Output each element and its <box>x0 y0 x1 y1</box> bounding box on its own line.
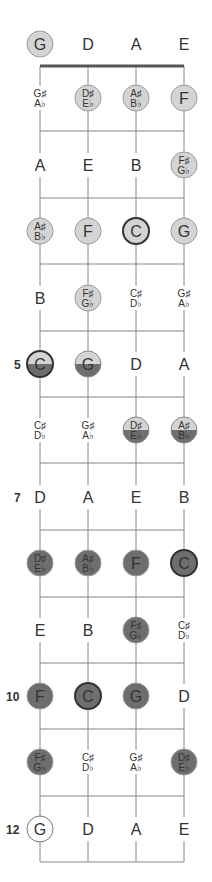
note-3-3: G <box>171 218 197 244</box>
note-label-flat: E♭ <box>82 98 94 109</box>
note-4-0: B <box>30 286 50 310</box>
note-label: C <box>34 356 46 373</box>
note-11-1: C♯D♭ <box>78 750 98 774</box>
note-12-0: G <box>27 816 53 842</box>
note-label: B <box>35 290 46 307</box>
note-label: D <box>130 356 142 373</box>
note-12-1: D <box>78 817 98 841</box>
fretboard-diagram: 571012GDAEG♯A♭D♯E♭A♯B♭FAEBF♯G♭A♯B♭FCGBF♯… <box>0 0 212 882</box>
note-2-3: F♯G♭ <box>171 152 197 178</box>
note-0-2: A <box>126 32 146 56</box>
note-label-flat: A♭ <box>178 298 190 309</box>
fret-number: 7 <box>14 491 21 505</box>
note-11-3: D♯E♭ <box>171 749 197 775</box>
note-5-2: D <box>126 352 146 376</box>
note-5-3: A <box>174 352 194 376</box>
note-3-0: A♯B♭ <box>27 218 53 244</box>
note-label: C <box>130 223 142 240</box>
note-label: C <box>178 555 190 572</box>
note-label: C <box>82 688 94 705</box>
note-label: G <box>178 223 190 240</box>
note-3-2: C <box>123 218 149 244</box>
note-label: G <box>34 36 46 53</box>
note-label: G <box>130 688 142 705</box>
note-12-2: A <box>126 817 146 841</box>
note-label-flat: G♭ <box>34 762 47 773</box>
note-8-3: C <box>171 550 197 576</box>
note-2-1: E <box>78 153 98 177</box>
note-label-flat: B♭ <box>130 98 142 109</box>
note-label: B <box>131 157 142 174</box>
note-1-0: G♯A♭ <box>30 86 50 110</box>
note-label: E <box>179 821 190 838</box>
note-label: G <box>82 356 94 373</box>
note-label-flat: D♭ <box>34 430 46 441</box>
note-label-flat: A♭ <box>34 98 46 109</box>
note-label-flat: G♭ <box>178 165 191 176</box>
note-7-3: B <box>174 485 194 509</box>
note-label: F <box>83 223 93 240</box>
note-label: D <box>34 489 46 506</box>
note-8-0: D♯E♭ <box>27 550 53 576</box>
note-label: B <box>83 622 94 639</box>
note-10-2: G <box>123 683 149 709</box>
note-9-1: B <box>78 618 98 642</box>
note-label: D <box>82 36 94 53</box>
note-7-2: E <box>126 485 146 509</box>
note-11-2: G♯A♭ <box>126 750 146 774</box>
note-label: F <box>179 90 189 107</box>
note-label: G <box>34 821 46 838</box>
note-4-3: G♯A♭ <box>174 286 194 310</box>
note-6-1: G♯A♭ <box>78 418 98 442</box>
note-label: A <box>131 821 142 838</box>
note-0-0: G <box>27 31 53 57</box>
note-10-3: D <box>174 684 194 708</box>
note-label: A <box>35 157 46 174</box>
note-label: D <box>82 821 94 838</box>
note-label: F <box>35 688 45 705</box>
note-label-flat: E♭ <box>34 563 46 574</box>
note-4-2: C♯D♭ <box>126 286 146 310</box>
note-label-flat: B♭ <box>82 563 94 574</box>
note-label: A <box>83 489 94 506</box>
note-label: B <box>179 489 190 506</box>
note-label-flat: A♭ <box>130 762 142 773</box>
note-label-flat: D♭ <box>178 630 190 641</box>
fret-number: 5 <box>14 358 21 372</box>
note-7-0: D <box>30 485 50 509</box>
note-6-3: A♯B♭ <box>171 417 197 443</box>
note-12-3: E <box>174 817 194 841</box>
note-0-3: E <box>174 32 194 56</box>
note-label: A <box>179 356 190 373</box>
note-label: E <box>83 157 94 174</box>
note-label-flat: D♭ <box>82 762 94 773</box>
note-8-1: A♯B♭ <box>75 550 101 576</box>
fret-number: 12 <box>6 823 20 837</box>
note-label: F <box>131 555 141 572</box>
note-0-1: D <box>78 32 98 56</box>
note-5-0: C <box>27 351 53 377</box>
fret-number: 10 <box>6 690 20 704</box>
note-1-1: D♯E♭ <box>75 85 101 111</box>
note-10-0: F <box>27 683 53 709</box>
note-4-1: F♯G♭ <box>75 285 101 311</box>
note-label: A <box>131 36 142 53</box>
note-5-1: G <box>75 351 101 377</box>
note-label-flat: D♭ <box>130 298 142 309</box>
note-2-0: A <box>30 153 50 177</box>
note-label: E <box>131 489 142 506</box>
note-7-1: A <box>78 485 98 509</box>
note-label: E <box>179 36 190 53</box>
note-6-2: D♯E♭ <box>123 417 149 443</box>
note-label: E <box>35 622 46 639</box>
note-label-flat: A♭ <box>82 430 94 441</box>
note-6-0: C♯D♭ <box>30 418 50 442</box>
note-10-1: C <box>75 683 101 709</box>
note-label: D <box>178 688 190 705</box>
note-1-3: F <box>171 85 197 111</box>
note-label-flat: G♭ <box>82 298 95 309</box>
note-label-flat: E♭ <box>130 430 142 441</box>
note-9-0: E <box>30 618 50 642</box>
note-9-2: F♯G♭ <box>123 617 149 643</box>
note-label-flat: E♭ <box>178 762 190 773</box>
